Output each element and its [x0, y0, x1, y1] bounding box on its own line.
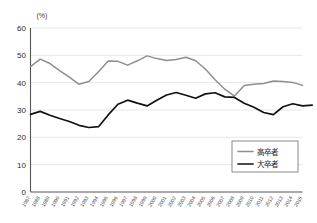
y-tick-label-60: 60 — [17, 24, 26, 33]
series-line-高卒者 — [31, 56, 303, 96]
x-tick-label-1994: 1994 — [88, 195, 99, 208]
x-tick-label-1991: 1991 — [59, 195, 70, 208]
x-tick-label-2010: 2010 — [244, 195, 255, 208]
x-tick-label-2004: 2004 — [186, 195, 197, 208]
x-tick-label-2001: 2001 — [156, 195, 167, 208]
x-tick-label-1992: 1992 — [69, 195, 80, 208]
x-tick-label-1995: 1995 — [98, 195, 109, 208]
legend-label-高卒者: 高卒者 — [257, 147, 279, 157]
chart-canvas: (%)0102030405060198719881989199019911992… — [0, 0, 317, 223]
x-tick-label-1989: 1989 — [40, 195, 51, 208]
y-tick-label-40: 40 — [17, 79, 26, 88]
x-tick-label-2013: 2013 — [273, 195, 284, 208]
x-tick-label-1990: 1990 — [50, 195, 61, 208]
y-axis-unit-label: (%) — [37, 12, 48, 20]
y-tick-label-30: 30 — [17, 106, 26, 115]
x-tick-label-2012: 2012 — [263, 195, 274, 208]
x-tick-label-1999: 1999 — [137, 195, 148, 208]
x-tick-label-2000: 2000 — [147, 195, 158, 208]
x-tick-label-2007: 2007 — [215, 195, 226, 208]
x-tick-label-2006: 2006 — [205, 195, 216, 208]
x-tick-label-2008: 2008 — [224, 195, 235, 208]
y-tick-label-50: 50 — [17, 51, 26, 60]
x-tick-label-2002: 2002 — [166, 195, 177, 208]
y-tick-label-20: 20 — [17, 133, 26, 142]
x-tick-label-1988: 1988 — [30, 195, 41, 208]
x-tick-label-1997: 1997 — [118, 195, 129, 208]
x-tick-label-1998: 1998 — [127, 195, 138, 208]
x-tick-label-2009: 2009 — [234, 195, 245, 208]
x-tick-label-2014: 2014 — [283, 195, 294, 208]
x-tick-label-2003: 2003 — [176, 195, 187, 208]
x-tick-label-1993: 1993 — [79, 195, 90, 208]
line-chart-panel: (%)0102030405060198719881989199019911992… — [0, 0, 317, 223]
y-tick-label-10: 10 — [17, 161, 26, 170]
legend-label-大卒者: 大卒者 — [257, 159, 279, 169]
x-tick-label-1996: 1996 — [108, 195, 119, 208]
x-tick-label-2015: 2015 — [292, 195, 303, 208]
x-tick-label-2005: 2005 — [195, 195, 206, 208]
